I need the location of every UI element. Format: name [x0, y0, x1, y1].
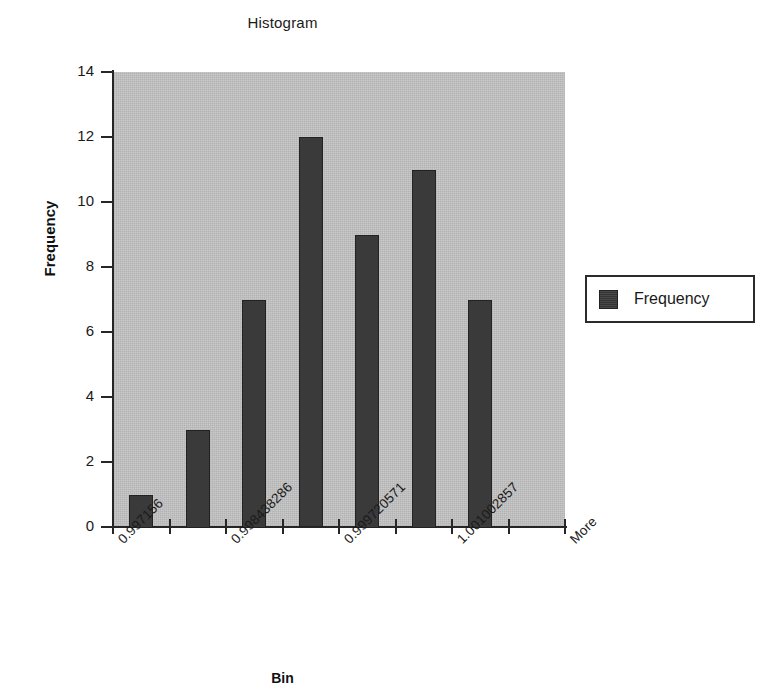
x-axis-tick: [395, 519, 397, 534]
y-axis-tick: [101, 71, 113, 73]
y-axis-tick-label: 6: [52, 323, 94, 338]
y-axis-tick: [101, 136, 113, 138]
histogram-bar[interactable]: [468, 300, 492, 528]
x-axis-tick: [225, 519, 227, 534]
x-axis-tick: [112, 519, 114, 534]
y-axis-tick: [101, 396, 113, 398]
histogram-bar[interactable]: [412, 170, 436, 528]
legend[interactable]: Frequency: [585, 275, 755, 323]
y-axis-tick: [101, 461, 113, 463]
histogram-bar[interactable]: [242, 300, 266, 528]
x-axis-tick: [564, 519, 566, 534]
x-axis-tick: [338, 519, 340, 534]
x-axis-tick-label: More: [567, 514, 600, 547]
x-axis-tick: [508, 519, 510, 534]
x-axis-title: Bin: [0, 670, 565, 686]
chart-title: Histogram: [0, 14, 565, 31]
y-axis-tick: [101, 331, 113, 333]
y-axis-tick-label: 4: [52, 388, 94, 403]
y-axis-title: Frequency: [41, 201, 58, 277]
plot-background-texture: [113, 72, 565, 527]
y-axis-tick: [101, 266, 113, 268]
x-axis-tick: [282, 519, 284, 534]
legend-label-frequency: Frequency: [634, 290, 710, 308]
histogram-bar[interactable]: [299, 137, 323, 527]
y-axis-tick: [101, 201, 113, 203]
legend-swatch-frequency: [599, 290, 618, 309]
histogram-chart: Histogram 024681012140.9971560.998438286…: [0, 0, 773, 698]
plot-area: [113, 72, 565, 527]
histogram-bar[interactable]: [355, 235, 379, 528]
y-axis-tick-label: 0: [52, 518, 94, 533]
y-axis-tick-label: 14: [52, 63, 94, 78]
y-axis-tick-label: 12: [52, 128, 94, 143]
histogram-bar[interactable]: [186, 430, 210, 528]
y-axis-tick-label: 2: [52, 453, 94, 468]
x-axis-tick: [169, 519, 171, 534]
x-axis-tick: [451, 519, 453, 534]
